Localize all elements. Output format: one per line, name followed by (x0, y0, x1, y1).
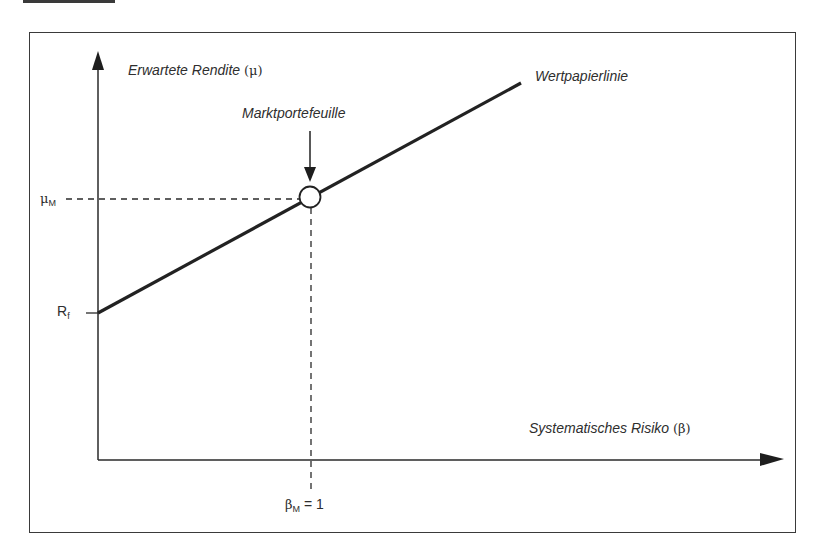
x-axis-label-text: Systematisches Risiko (529, 420, 669, 436)
line-label: Wertpapierlinie (535, 69, 628, 83)
y-tick-rf-base: R (57, 303, 67, 319)
y-axis-label-text: Erwartete Rendite (128, 62, 240, 78)
x-axis-symbol: (β) (673, 421, 691, 436)
y-axis-label: Erwartete Rendite (μ) (128, 63, 263, 77)
x-axis-arrowhead-icon (760, 453, 784, 466)
x-axis-label: Systematisches Risiko (β) (529, 421, 691, 435)
y-axis-arrowhead-icon (92, 51, 104, 70)
x-tick-beta-rest: = 1 (300, 496, 324, 512)
market-portfolio-marker (300, 187, 321, 208)
x-tick-beta-base: β (285, 497, 293, 512)
x-tick-beta-sub: M (293, 504, 301, 514)
y-tick-rf-sub: f (67, 311, 70, 321)
annotation-arrowhead-icon (304, 167, 316, 182)
y-tick-mu-m: μM (40, 191, 56, 205)
sml-plot (0, 0, 830, 558)
y-tick-rf: Rf (57, 304, 70, 318)
y-axis-symbol: (μ) (244, 63, 263, 78)
point-label: Marktportefeuille (242, 106, 346, 120)
y-tick-mu-sub: M (48, 198, 56, 208)
x-tick-beta-m: βM = 1 (285, 497, 324, 511)
